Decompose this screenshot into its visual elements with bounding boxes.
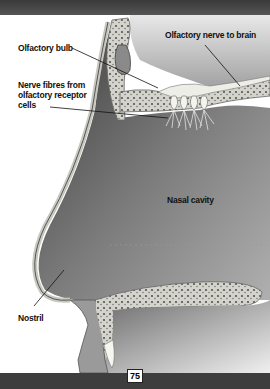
nose-cross-section-illustration <box>0 0 270 389</box>
label-nerve-fibres-line2: olfactory receptor <box>18 90 87 100</box>
label-nerve-fibres-line3: cells <box>18 100 87 110</box>
label-nerve-fibres: Nerve fibres from olfactory receptor cel… <box>18 80 87 110</box>
label-nerve-fibres-line1: Nerve fibres from <box>18 80 87 90</box>
label-nostril: Nostril <box>18 313 44 323</box>
label-nasal-cavity: Nasal cavity <box>167 195 214 205</box>
label-olfactory-nerve: Olfactory nerve to brain <box>165 30 256 40</box>
label-olfactory-bulb: Olfactory bulb <box>18 43 73 53</box>
book-page: Olfactory bulb Olfactory nerve to brain … <box>0 0 270 389</box>
page-number: 75 <box>127 369 143 383</box>
